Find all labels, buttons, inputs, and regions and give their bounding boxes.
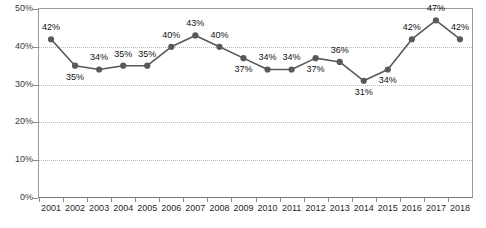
data-point-label: 42% xyxy=(399,23,425,32)
data-point-label: 34% xyxy=(375,76,401,85)
line-chart: 0%10%20%30%40%50% 2001200220032004200520… xyxy=(0,0,486,228)
data-point-marker xyxy=(264,66,270,72)
data-point-marker xyxy=(409,36,415,42)
data-point-marker xyxy=(120,63,126,69)
data-point-label: 47% xyxy=(423,4,449,13)
data-point-marker xyxy=(385,66,391,72)
data-point-marker xyxy=(457,36,463,42)
data-point-marker xyxy=(337,59,343,65)
data-point-label: 36% xyxy=(327,46,353,55)
data-point-label: 35% xyxy=(110,50,136,59)
data-point-label: 37% xyxy=(230,65,256,74)
data-point-label: 35% xyxy=(62,73,88,82)
data-point-marker xyxy=(288,66,294,72)
data-point-label: 35% xyxy=(134,50,160,59)
data-point-label: 40% xyxy=(158,31,184,40)
data-point-label: 34% xyxy=(255,53,281,62)
data-point-marker xyxy=(361,78,367,84)
data-point-label: 42% xyxy=(447,23,473,32)
data-point-label: 31% xyxy=(351,88,377,97)
data-point-marker xyxy=(144,63,150,69)
data-point-label: 40% xyxy=(206,31,232,40)
series-line xyxy=(0,0,486,228)
data-point-marker xyxy=(168,44,174,50)
data-point-marker xyxy=(433,17,439,23)
data-point-marker xyxy=(96,66,102,72)
data-point-label: 43% xyxy=(182,19,208,28)
data-point-marker xyxy=(72,63,78,69)
data-point-label: 34% xyxy=(279,53,305,62)
data-point-marker xyxy=(192,32,198,38)
data-point-label: 42% xyxy=(38,23,64,32)
data-point-marker xyxy=(240,55,246,61)
data-point-marker xyxy=(216,44,222,50)
data-point-label: 37% xyxy=(303,65,329,74)
data-point-marker xyxy=(313,55,319,61)
data-point-marker xyxy=(48,36,54,42)
data-point-label: 34% xyxy=(86,53,112,62)
